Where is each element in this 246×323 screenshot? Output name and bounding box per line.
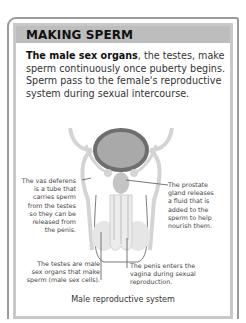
label-line: The penis enters the [130, 262, 210, 270]
label-penis: The penis enters the vagina during sexua… [130, 262, 210, 287]
bladder-shape [95, 130, 147, 170]
label-line: nourish them. [168, 222, 228, 230]
prostate-shape [113, 172, 130, 194]
label-line: The testes are male [22, 260, 100, 268]
label-line: so they can be [20, 210, 76, 218]
figure-caption: Male reproductive system [0, 295, 246, 304]
label-line: gland releases [168, 189, 228, 197]
label-line: sperm to help [168, 214, 228, 222]
label-vas-deferens: The vas deferens is a tube that carries … [20, 177, 76, 234]
label-line: sex organs that make [22, 268, 100, 276]
label-line: a fluid that is [168, 197, 228, 205]
label-testes: The testes are male sex organs that make… [22, 260, 100, 285]
label-line: carries sperm [20, 193, 76, 201]
label-line: released from [20, 218, 76, 226]
label-line: from the testes [20, 202, 76, 210]
label-line: The vas deferens [20, 177, 76, 185]
label-line: is a tube that [20, 185, 76, 193]
label-line: reproduction. [130, 278, 210, 286]
label-line: the penis. [20, 226, 76, 234]
label-line: sperm (male sex cells). [22, 276, 100, 284]
label-line: added to the [168, 206, 228, 214]
label-line: The prostate [168, 181, 228, 189]
label-line: vagina during sexual [130, 270, 210, 278]
label-prostate: The prostate gland releases a fluid that… [168, 181, 228, 230]
